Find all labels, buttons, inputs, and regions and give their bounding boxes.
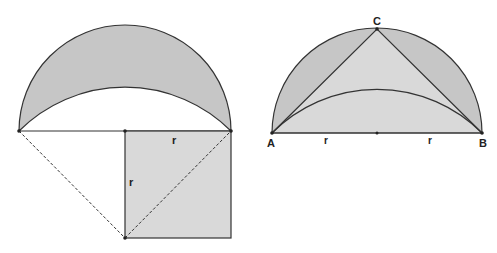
- point-b: [480, 131, 484, 135]
- point-center: [376, 132, 379, 135]
- left-point-center: [123, 129, 127, 133]
- label-r-right: r: [428, 135, 432, 146]
- label-b: B: [479, 137, 487, 149]
- left-point-bottom: [123, 236, 127, 240]
- left-label-r-top: r: [172, 134, 177, 146]
- label-a: A: [267, 137, 275, 149]
- point-a: [270, 131, 274, 135]
- label-c: C: [373, 15, 381, 27]
- left-label-r-left: r: [129, 176, 134, 188]
- label-r-left: r: [324, 135, 328, 146]
- left-dashed-line-1: [19, 131, 125, 238]
- point-c: [375, 27, 379, 31]
- left-point-b: [229, 129, 233, 133]
- left-figure: r r: [17, 25, 233, 240]
- left-point-a: [17, 129, 21, 133]
- left-lune: [19, 25, 231, 131]
- diagram-canvas: r r A B C r r: [0, 0, 497, 253]
- right-figure: A B C r r: [267, 15, 487, 149]
